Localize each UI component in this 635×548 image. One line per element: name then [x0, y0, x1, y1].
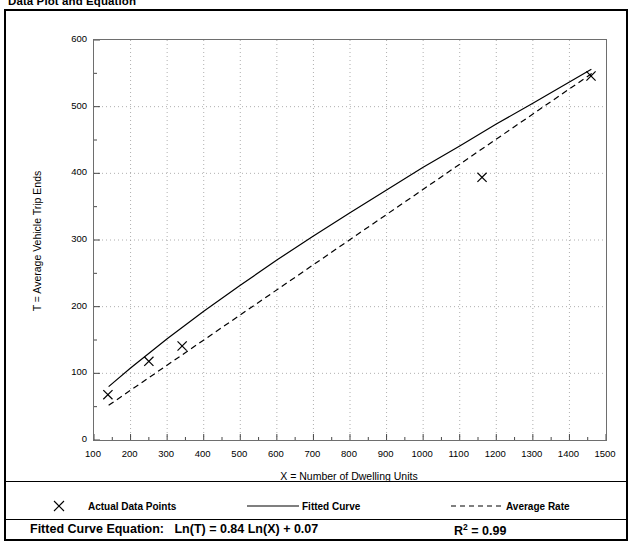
legend-item-actual-data-points: Actual Data Points: [30, 493, 176, 519]
x-tick-label-300: 300: [158, 449, 174, 459]
legend-item-average-rate: Average Rate: [448, 493, 570, 519]
plot-area: [93, 39, 607, 441]
x-tick-label-400: 400: [195, 449, 211, 459]
x-tick-label-500: 500: [231, 449, 247, 459]
x-tick-label-1500: 1500: [594, 449, 615, 459]
x-tick-label-1300: 1300: [521, 449, 542, 459]
figure-page: Data Plot and Equation T = Average Vehic…: [0, 0, 635, 548]
legend-label-average-rate: Average Rate: [506, 501, 570, 512]
legend-label-actual-data-points: Actual Data Points: [88, 501, 176, 512]
equation-row: Fitted Curve Equation: Ln(T) = 0.84 Ln(X…: [6, 519, 626, 541]
x-tick-label-700: 700: [304, 449, 320, 459]
x-tick-label-800: 800: [341, 449, 357, 459]
r-squared-exponent: 2: [463, 522, 468, 532]
data-point-marker: [103, 390, 112, 399]
dashed-line-icon: [448, 496, 506, 516]
solid-line-icon: [244, 496, 302, 516]
equation-label: Fitted Curve Equation:: [30, 522, 164, 536]
equation-value: Ln(T) = 0.84 Ln(X) + 0.07: [174, 522, 318, 536]
data-layer: [94, 40, 606, 440]
legend-item-fitted-curve: Fitted Curve: [244, 493, 360, 519]
separator-above-legend: [6, 481, 626, 482]
r-squared-annotation: R2 = 0.99: [454, 522, 506, 538]
x-tick-label-1400: 1400: [558, 449, 579, 459]
r-squared-label: R: [454, 524, 463, 538]
figure-frame: T = Average Vehicle Trip Ends 0100200300…: [4, 9, 628, 541]
x-tick-label-1100: 1100: [448, 449, 468, 459]
x-tick-label-900: 900: [378, 449, 394, 459]
series-line-fitted-curve: [109, 69, 592, 386]
data-point-marker: [178, 341, 187, 350]
series-line-average-rate: [109, 71, 595, 405]
plot-wrapper: T = Average Vehicle Trip Ends 0100200300…: [6, 11, 626, 481]
x-tick-label-600: 600: [268, 449, 284, 459]
x-tick-label-1200: 1200: [485, 449, 506, 459]
x-tick-label-100: 100: [85, 449, 101, 459]
r-squared-value: = 0.99: [471, 524, 506, 538]
chart-legend: Actual Data Points Fitted Curve Average …: [6, 493, 626, 519]
fitted-curve-equation: Fitted Curve Equation: Ln(T) = 0.84 Ln(X…: [30, 522, 318, 536]
data-point-marker: [144, 357, 153, 366]
document-heading: Data Plot and Equation: [8, 0, 136, 7]
x-tick-label-1000: 1000: [412, 449, 433, 459]
legend-label-fitted-curve: Fitted Curve: [302, 501, 360, 512]
x-marker-icon: [30, 496, 88, 516]
x-tick-label-200: 200: [122, 449, 138, 459]
data-point-marker: [477, 173, 486, 182]
